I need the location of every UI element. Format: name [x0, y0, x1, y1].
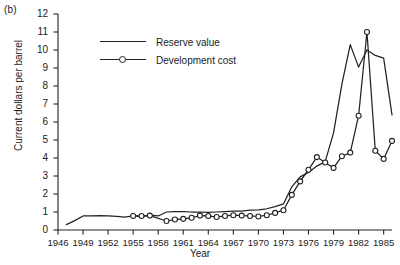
- data-point-marker: [339, 154, 344, 159]
- data-point-marker: [314, 155, 319, 160]
- data-point-marker: [248, 213, 253, 218]
- y-tick-label: 7: [26, 98, 48, 109]
- y-tick-label: 9: [26, 62, 48, 73]
- y-tick-label: 11: [26, 26, 48, 37]
- y-tick-label: 0: [26, 224, 48, 235]
- data-point-marker: [331, 165, 336, 170]
- y-tick-label: 2: [26, 188, 48, 199]
- data-point-marker: [147, 213, 152, 218]
- data-point-marker: [256, 214, 261, 219]
- data-point-marker: [139, 213, 144, 218]
- series-line-development-cost: [133, 32, 392, 221]
- data-point-marker: [131, 213, 136, 218]
- data-point-marker: [231, 213, 236, 218]
- data-point-marker: [189, 215, 194, 220]
- data-point-marker: [181, 216, 186, 221]
- data-point-marker: [281, 208, 286, 213]
- data-point-marker: [197, 213, 202, 218]
- series-line-reserve-value: [66, 45, 392, 225]
- data-point-marker: [323, 160, 328, 165]
- data-point-marker: [289, 192, 294, 197]
- data-point-marker: [223, 213, 228, 218]
- y-tick-label: 1: [26, 206, 48, 217]
- y-tick-label: 4: [26, 152, 48, 163]
- data-point-marker: [306, 167, 311, 172]
- y-tick-label: 6: [26, 116, 48, 127]
- plot-area: [0, 0, 400, 265]
- data-point-marker: [264, 213, 269, 218]
- y-tick-label: 5: [26, 134, 48, 145]
- x-tick-label: 1985: [364, 237, 400, 248]
- data-point-marker: [373, 148, 378, 153]
- data-point-marker: [273, 210, 278, 215]
- figure-panel: (b) Current dollars per barrel Year Rese…: [0, 0, 400, 265]
- data-point-marker: [364, 30, 369, 35]
- y-tick-label: 10: [26, 44, 48, 55]
- data-point-marker: [390, 138, 395, 143]
- data-point-marker: [214, 215, 219, 220]
- data-point-marker: [348, 150, 353, 155]
- data-point-marker: [164, 219, 169, 224]
- data-point-marker: [356, 113, 361, 118]
- data-point-marker: [298, 179, 303, 184]
- y-tick-label: 3: [26, 170, 48, 181]
- data-point-marker: [381, 156, 386, 161]
- y-tick-label: 8: [26, 80, 48, 91]
- data-point-marker: [239, 213, 244, 218]
- y-tick-label: 12: [26, 8, 48, 19]
- data-point-marker: [206, 213, 211, 218]
- data-point-marker: [172, 217, 177, 222]
